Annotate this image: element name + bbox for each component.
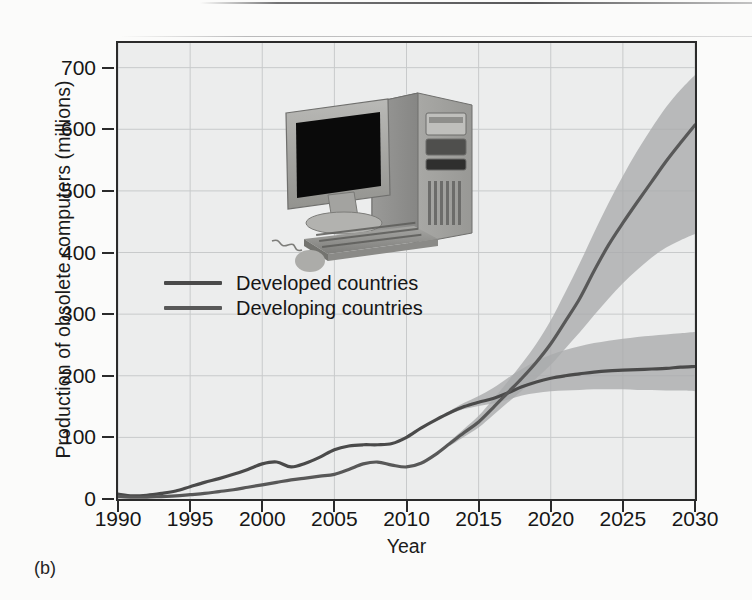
y-tick-label: 600: [34, 118, 96, 139]
x-tick-mark: [478, 501, 480, 512]
y-tick-mark: [102, 313, 114, 315]
desktop-computer-illustration: [268, 91, 473, 286]
x-tick-mark: [189, 501, 191, 512]
y-tick-mark: [102, 436, 114, 438]
x-tick-mark: [622, 501, 624, 512]
y-tick-label: 400: [34, 242, 96, 263]
legend-label-developed: Developed countries: [236, 273, 418, 293]
y-tick-mark: [102, 375, 114, 377]
chart-legend: Developed countries Developing countries: [164, 270, 423, 320]
legend-swatch-developed: [164, 281, 222, 285]
uncertainty-bands: [450, 75, 695, 446]
x-tick-mark: [694, 501, 696, 512]
panel-letter: (b): [34, 558, 56, 579]
y-tick-label: 300: [34, 303, 96, 324]
legend-swatch-developing: [164, 306, 222, 310]
legend-item-developing: Developing countries: [164, 295, 423, 320]
y-tick-label: 700: [34, 57, 96, 78]
figure-panel: Production of obsolete computers (millio…: [0, 0, 752, 600]
x-tick-mark: [406, 501, 408, 512]
x-axis-title: Year: [116, 535, 697, 558]
y-tick-mark: [102, 128, 114, 130]
y-tick-mark: [102, 498, 114, 500]
y-tick-label: 200: [34, 365, 96, 386]
x-tick-mark: [117, 501, 119, 512]
y-tick-mark: [102, 67, 114, 69]
x-tick-mark: [333, 501, 335, 512]
x-tick-mark: [261, 501, 263, 512]
band-developing: [450, 75, 695, 446]
y-tick-label: 100: [34, 426, 96, 447]
scan-artifact-top-rule: [200, 2, 752, 4]
y-tick-mark: [102, 190, 114, 192]
scan-artifact-secondary-rule: [120, 36, 752, 37]
legend-item-developed: Developed countries: [164, 270, 423, 295]
x-tick-mark: [550, 501, 552, 512]
y-tick-label: 0: [34, 488, 96, 509]
y-tick-label: 500: [34, 180, 96, 201]
plot-area: Developed countries Developing countries: [116, 41, 697, 501]
legend-label-developing: Developing countries: [236, 298, 423, 318]
y-tick-mark: [102, 252, 114, 254]
